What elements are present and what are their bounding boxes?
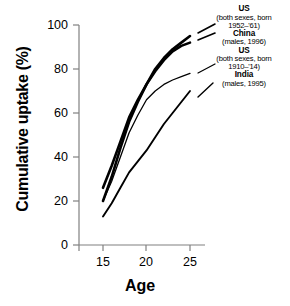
chart-legend: US (both sexes, born 1952–'61) China (ma…	[198, 5, 290, 88]
y-tick-label-80: 80	[38, 62, 68, 76]
chart-figure: 100 80 60 40 20 0 15 20 25 Cumulative up…	[0, 0, 290, 306]
y-axis-ticks	[73, 25, 79, 245]
legend-entry-us-1910: US (both sexes, born 1910–'14)	[198, 47, 290, 72]
y-tick-label-20: 20	[38, 194, 68, 208]
y-tick-label-0: 0	[38, 238, 68, 252]
y-tick-label-100: 100	[38, 18, 68, 32]
y-axis-title: Cumulative uptake (%)	[14, 14, 32, 244]
legend-entry-us-1952: US (both sexes, born 1952–'61)	[198, 5, 290, 30]
legend-entry-india-1995: India (males, 1995)	[198, 71, 290, 88]
x-tick-label-25: 25	[175, 255, 205, 269]
y-tick-label-60: 60	[38, 106, 68, 120]
series-line-china-1996	[103, 43, 190, 201]
x-axis-ticks	[79, 245, 190, 251]
legend-sub1-india-1995: (males, 1995)	[198, 80, 290, 88]
x-tick-label-20: 20	[131, 255, 161, 269]
x-tick-label-15: 15	[88, 255, 118, 269]
x-axis-title: Age	[79, 277, 201, 295]
y-tick-label-40: 40	[38, 150, 68, 164]
legend-entry-china-1996: China (males, 1996)	[198, 30, 290, 47]
series-line-us-1910	[103, 73, 190, 201]
